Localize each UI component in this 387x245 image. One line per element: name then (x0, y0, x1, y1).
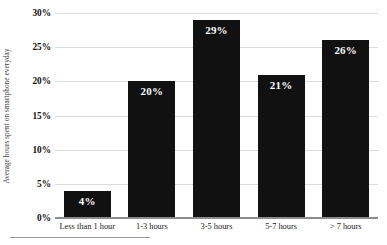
x-axis-tick-labels: Less than 1 hour1-3 hours3-5 hours5-7 ho… (55, 222, 378, 242)
bar-value-label: 26% (322, 44, 369, 56)
x-axis-line (55, 217, 378, 219)
y-axis-tick-label: 15% (32, 111, 51, 121)
y-axis-tick-label: 5% (37, 179, 51, 189)
bar-chart: Average hours spent on smartphone everyd… (0, 0, 387, 245)
bars-group: 4%20%29%21%26% (55, 13, 378, 219)
plot-area: 4%20%29%21%26% (55, 13, 378, 219)
bottom-rule (10, 237, 150, 238)
x-axis-tick-label: Less than 1 hour (55, 222, 120, 231)
y-axis-title-text: Average hours spent on smartphone everyd… (3, 48, 11, 183)
bar[interactable]: 29% (193, 20, 240, 218)
y-axis-title: Average hours spent on smartphone everyd… (0, 0, 14, 232)
bar-value-label: 20% (128, 85, 175, 97)
bar-value-label: 29% (193, 24, 240, 36)
bar-value-label: 21% (258, 79, 305, 91)
bar[interactable]: 21% (258, 75, 305, 219)
y-axis-tick-label: 0% (37, 213, 51, 223)
y-axis-tick-labels: 0%5%10%15%20%25%30% (14, 0, 55, 245)
y-axis-tick-label: 30% (32, 8, 51, 18)
bar[interactable]: 4% (64, 191, 111, 218)
x-axis-tick-label: > 7 hours (313, 222, 378, 231)
y-axis-tick-label: 25% (32, 42, 51, 52)
x-axis-tick-label: 5-7 hours (249, 222, 314, 231)
x-axis-tick-label: 1-3 hours (120, 222, 185, 231)
bar-value-label: 4% (64, 195, 111, 207)
bar[interactable]: 26% (322, 40, 369, 218)
bar[interactable]: 20% (128, 81, 175, 218)
y-axis-tick-label: 10% (32, 145, 51, 155)
x-axis-tick-label: 3-5 hours (184, 222, 249, 231)
y-axis-tick-label: 20% (32, 76, 51, 86)
